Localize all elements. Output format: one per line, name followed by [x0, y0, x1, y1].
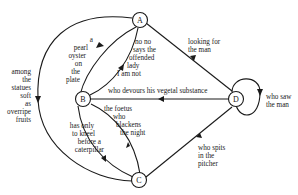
- svg-text:lady: lady: [127, 62, 140, 70]
- svg-text:pearl: pearl: [74, 44, 88, 52]
- edge-label-d-to-d: who saw the man: [266, 93, 292, 109]
- svg-text:B: B: [80, 95, 85, 104]
- svg-text:before a: before a: [78, 138, 102, 146]
- arrow-head-icon: [257, 89, 263, 96]
- svg-text:in the: in the: [198, 152, 214, 160]
- arrow-head-icon: [158, 96, 164, 102]
- edge-label-a-to-b: a pearl oyster on the plate: [66, 36, 94, 84]
- svg-text:soft: soft: [20, 92, 31, 100]
- svg-text:has only: has only: [70, 122, 95, 130]
- graph-diagram: A B C D among the statues soft as overri…: [0, 0, 298, 195]
- svg-text:a: a: [90, 36, 94, 44]
- svg-text:overripe: overripe: [7, 108, 31, 116]
- arrow-head-icon: [96, 42, 104, 48]
- edge-label-b-to-c: has only to kneel before a caterpillar: [70, 122, 105, 154]
- svg-text:oyster: oyster: [68, 52, 86, 60]
- svg-text:the man: the man: [266, 101, 289, 109]
- node-b: B: [76, 92, 91, 107]
- node-a: A: [133, 13, 148, 28]
- node-c: C: [132, 173, 147, 188]
- svg-text:I am not: I am not: [117, 70, 141, 78]
- edge-label-a-to-c: among the statues soft as overripe fruit…: [7, 68, 31, 124]
- arrow-head-icon: [126, 142, 130, 148]
- arrow-head-icon: [35, 96, 41, 103]
- edge-d-to-c: [146, 107, 232, 177]
- svg-text:who: who: [113, 113, 126, 121]
- node-d: D: [229, 92, 244, 107]
- svg-text:the: the: [22, 76, 31, 84]
- svg-text:blackens: blackens: [116, 121, 141, 129]
- svg-text:fruits: fruits: [16, 116, 31, 124]
- edge-label-b-to-a: no no says the offended lady I am not: [117, 38, 156, 78]
- edge-a-to-b: [80, 27, 136, 95]
- svg-text:no no: no no: [135, 38, 152, 46]
- svg-text:the: the: [71, 68, 80, 76]
- svg-text:the foetus: the foetus: [104, 105, 132, 113]
- svg-text:to kneel: to kneel: [72, 130, 95, 138]
- svg-text:offended: offended: [129, 54, 155, 62]
- svg-text:A: A: [137, 16, 143, 25]
- svg-text:who spits: who spits: [198, 144, 226, 152]
- svg-text:pitcher: pitcher: [198, 160, 219, 168]
- svg-text:among: among: [11, 68, 31, 76]
- edge-label-d-to-c: who spits in the pitcher: [198, 144, 226, 168]
- svg-text:the night: the night: [120, 129, 145, 137]
- edge-label-c-to-b: the foetus who blackens the night: [104, 105, 145, 137]
- svg-text:caterpillar: caterpillar: [75, 146, 105, 154]
- svg-text:who devours his vegetal substa: who devours his vegetal substance: [108, 87, 207, 95]
- svg-text:on: on: [75, 60, 83, 68]
- svg-text:plate: plate: [66, 76, 80, 84]
- svg-text:as: as: [25, 100, 31, 108]
- svg-text:C: C: [136, 176, 141, 185]
- edge-label-a-to-d: looking for the man: [188, 38, 221, 54]
- svg-text:the man: the man: [188, 46, 211, 54]
- svg-text:looking for: looking for: [188, 38, 221, 46]
- edge-a-to-d: [146, 23, 232, 91]
- svg-text:says the: says the: [133, 46, 156, 54]
- svg-text:D: D: [233, 95, 239, 104]
- svg-text:statues: statues: [11, 84, 31, 92]
- svg-text:who saw: who saw: [266, 93, 292, 101]
- edge-label-d-to-b: who devours his vegetal substance: [108, 87, 207, 95]
